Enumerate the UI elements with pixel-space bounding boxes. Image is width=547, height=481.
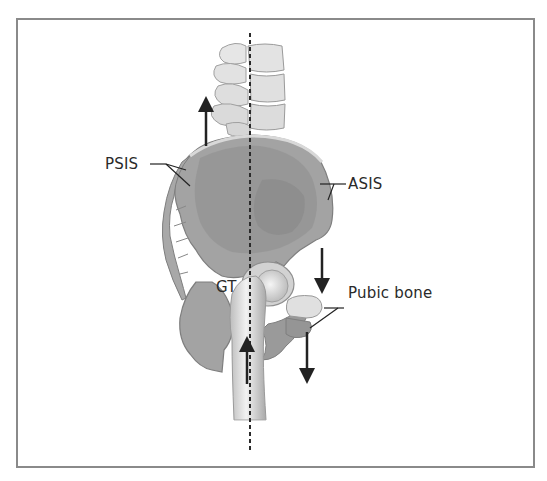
lumbar-vertebrae xyxy=(211,43,285,136)
label-asis: ASIS xyxy=(348,177,383,192)
pubic-bone xyxy=(286,296,322,338)
label-gt: GT xyxy=(216,280,237,295)
pelvis-anatomy-illustration xyxy=(0,0,547,481)
ilium xyxy=(175,135,333,278)
label-pubic-bone: Pubic bone xyxy=(348,286,432,301)
arrow-down-anterior-upper-icon xyxy=(314,248,330,294)
label-psis: PSIS xyxy=(105,157,138,172)
arrow-up-posterior-icon xyxy=(198,96,214,146)
arrow-down-anterior-lower-icon xyxy=(299,332,315,384)
